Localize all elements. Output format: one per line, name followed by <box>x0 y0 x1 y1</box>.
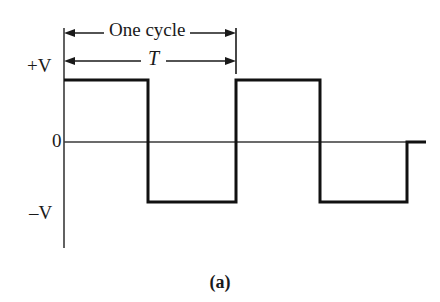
figure-caption: (a) <box>0 272 440 293</box>
square-wave-figure: +V 0 –V One cycle T (a) <box>0 0 440 302</box>
axis-label-zero: 0 <box>52 131 62 150</box>
one-cycle-label: One cycle <box>104 20 190 39</box>
square-wave-trace <box>64 80 426 202</box>
waveform-plot <box>0 0 440 302</box>
axis-label-negative-v: –V <box>29 203 52 222</box>
period-label: T <box>141 48 166 68</box>
axis-label-positive-v: +V <box>27 56 51 75</box>
